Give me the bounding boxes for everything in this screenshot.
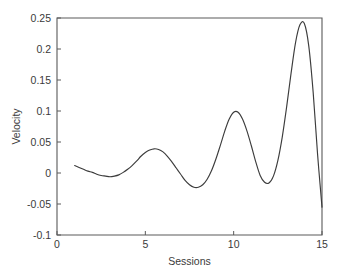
velocity-line-chart: -0.1-0.0500.050.10.150.20.25 051015 Sess… [0, 0, 346, 272]
x-tick-label: 0 [54, 238, 60, 250]
y-tick-label: 0.15 [31, 74, 52, 86]
y-tick-label: 0.25 [31, 12, 52, 24]
x-axis-ticks: 051015 [54, 231, 328, 250]
x-tick-label: 5 [142, 238, 148, 250]
x-tick-label: 15 [316, 238, 328, 250]
plot-axes-frame [57, 18, 322, 235]
y-tick-label: 0.05 [31, 136, 52, 148]
y-tick-label: 0.1 [36, 105, 51, 117]
y-tick-label: 0 [45, 167, 51, 179]
y-axis-title: Velocity [10, 108, 22, 145]
x-axis-title: Sessions [168, 255, 211, 267]
y-tick-label: -0.05 [27, 198, 51, 210]
chart-figure: -0.1-0.0500.050.10.150.20.25 051015 Sess… [0, 0, 346, 272]
velocity-data-curve [75, 22, 322, 208]
y-tick-label: 0.2 [36, 43, 51, 55]
y-axis-ticks: -0.1-0.0500.050.10.150.20.25 [27, 12, 61, 241]
y-tick-label: -0.1 [33, 229, 51, 241]
x-tick-label: 10 [228, 238, 240, 250]
